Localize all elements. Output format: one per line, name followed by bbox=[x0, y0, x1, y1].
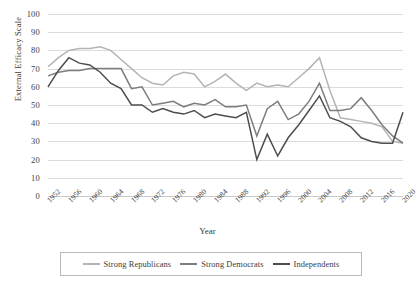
x-axis-tick-labels: 1952195619601964196819721976198019841988… bbox=[48, 198, 403, 224]
x-axis-title: Year bbox=[0, 226, 415, 236]
series-line-strong-democrats bbox=[48, 69, 403, 144]
y-axis-tick-label: 50 bbox=[31, 100, 40, 110]
y-axis-tick-label: 60 bbox=[31, 82, 40, 92]
legend-entry[interactable]: Independents bbox=[273, 260, 340, 269]
legend-entry[interactable]: Strong Republicans bbox=[83, 260, 172, 269]
y-axis-tick-label: 80 bbox=[31, 45, 40, 55]
plot-area bbox=[48, 14, 403, 196]
legend-label: Strong Republicans bbox=[104, 260, 172, 269]
y-axis-tick-labels: 1009080706050403020100 bbox=[0, 0, 46, 196]
legend-entry[interactable]: Strong Democrats bbox=[180, 260, 263, 269]
series-line-strong-republicans bbox=[48, 47, 403, 143]
y-axis-tick-label: 40 bbox=[31, 118, 40, 128]
y-axis-tick-label: 100 bbox=[27, 9, 40, 19]
y-axis-tick-label: 70 bbox=[31, 64, 40, 74]
y-axis-tick-label: 10 bbox=[31, 173, 40, 183]
chart-legend: Strong RepublicansStrong DemocratsIndepe… bbox=[60, 252, 362, 276]
y-axis-tick-label: 90 bbox=[31, 27, 40, 37]
legend-swatch-icon bbox=[180, 263, 197, 265]
legend-swatch-icon bbox=[83, 263, 100, 265]
y-axis-tick-label: 0 bbox=[36, 191, 40, 201]
y-axis-tick-label: 20 bbox=[31, 155, 40, 165]
series-lines bbox=[48, 14, 403, 196]
legend-label: Independents bbox=[294, 260, 340, 269]
legend-swatch-icon bbox=[273, 263, 290, 265]
legend-label: Strong Democrats bbox=[201, 260, 263, 269]
y-axis-tick-label: 30 bbox=[31, 136, 40, 146]
